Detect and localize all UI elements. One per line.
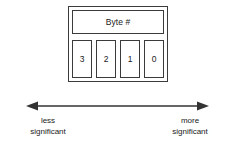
axis-label-less-significant: less significant <box>8 115 88 137</box>
byte-header-box: Byte # <box>72 10 164 34</box>
axis-label-more-line1: more <box>150 115 230 126</box>
byte-cell-row: 3 2 1 0 <box>72 40 164 78</box>
byte-cell: 2 <box>96 40 116 78</box>
axis-label-less-line1: less <box>8 115 88 126</box>
double-headed-arrow-icon <box>26 98 209 114</box>
axis-label-more-line2: significant <box>150 126 230 137</box>
byte-header-label: Byte # <box>106 18 131 27</box>
significance-axis <box>26 98 209 114</box>
byte-cell-value: 0 <box>152 55 157 64</box>
axis-label-less-line2: significant <box>8 126 88 137</box>
byte-diagram-frame: Byte # 3 2 1 0 <box>68 6 168 82</box>
axis-label-more-significant: more significant <box>150 115 230 137</box>
byte-cell-value: 3 <box>80 55 85 64</box>
byte-cell: 1 <box>120 40 140 78</box>
byte-cell: 0 <box>144 40 164 78</box>
byte-cell: 3 <box>72 40 92 78</box>
byte-cell-value: 1 <box>128 55 133 64</box>
byte-cell-value: 2 <box>104 55 109 64</box>
